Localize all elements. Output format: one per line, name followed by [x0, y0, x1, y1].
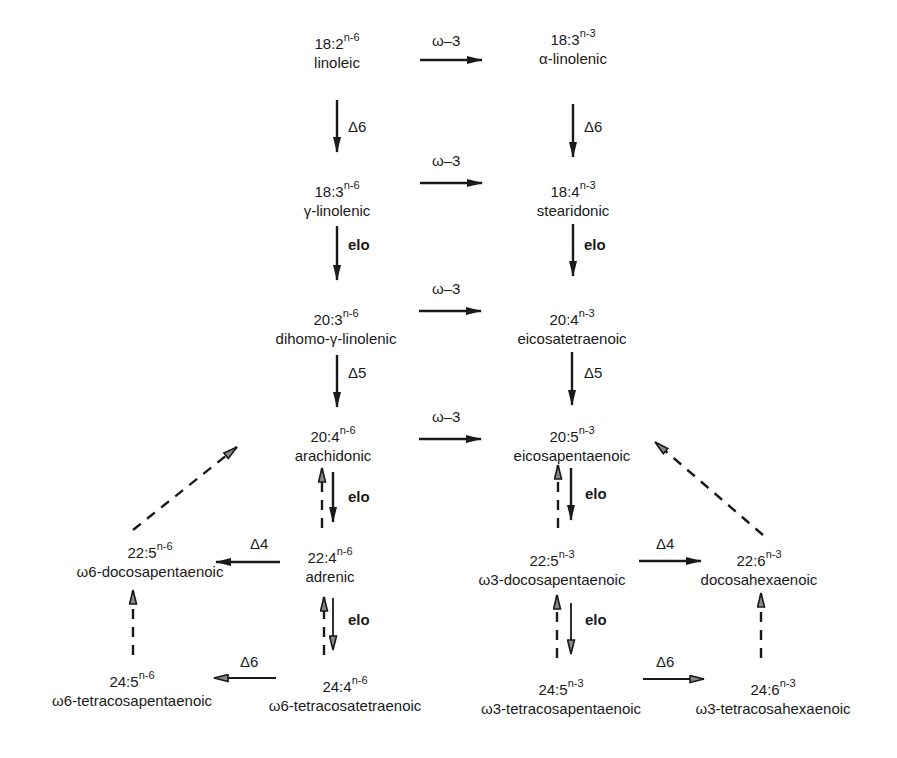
node-code: 20:5: [549, 428, 578, 445]
node-series: n-6: [340, 424, 356, 436]
label-d6-left: Δ6: [348, 118, 366, 136]
node-name: arachidonic: [295, 446, 372, 465]
label-d6-bottom-left: Δ6: [240, 653, 258, 671]
label-omega3-2: ω–3: [432, 152, 460, 170]
node-name: dihomo-γ-linolenic: [276, 329, 397, 348]
arrows-layer: [0, 0, 897, 758]
node-22-6-docosahexaenoic: 22:6n-3 docosahexaenoic: [701, 551, 818, 589]
node-name: eicosatetraenoic: [517, 329, 626, 348]
node-series: n-3: [559, 548, 575, 560]
node-code: 18:3: [314, 183, 343, 200]
node-22-5-omega6-docosapentaenoic: 22:5n-6 ω6-docosapentaenoic: [77, 543, 224, 581]
node-20-5-eicosapentaenoic: 20:5n-3 eicosapentaenoic: [514, 427, 631, 465]
node-name: eicosapentaenoic: [514, 446, 631, 465]
node-series: n-6: [344, 31, 360, 43]
label-omega3-4: ω–3: [432, 408, 460, 426]
node-series: n-3: [579, 307, 595, 319]
node-code: 24:5: [538, 681, 567, 698]
node-18-2-linoleic: 18:2n-6 linoleic: [314, 34, 360, 72]
node-series: n-3: [580, 27, 596, 39]
node-name: stearidonic: [537, 201, 610, 220]
node-code: 20:4: [310, 428, 339, 445]
node-name: adrenic: [305, 567, 354, 586]
label-d4-left: Δ4: [250, 535, 268, 553]
node-code: 18:3: [550, 31, 579, 48]
node-series: n-6: [344, 179, 360, 191]
node-series: n-6: [352, 674, 368, 686]
label-elo-right-3: elo: [585, 611, 607, 629]
node-20-4-arachidonic: 20:4n-6 arachidonic: [295, 427, 372, 465]
node-20-3-dihomo-gamma-linolenic: 20:3n-6 dihomo-γ-linolenic: [276, 310, 397, 348]
arrow-dashed-22-5n6-to-20-4: [133, 447, 237, 530]
node-code: 22:5: [529, 552, 558, 569]
node-name: ω3-tetracosapentaenoic: [481, 699, 641, 718]
node-24-6-omega3-tetracosahexaenoic: 24:6n-3 ω3-tetracosahexaenoic: [695, 680, 850, 718]
node-name: ω3-tetracosahexaenoic: [695, 699, 850, 718]
node-name: ω6-tetracosapentaenoic: [52, 691, 212, 710]
node-code: 24:5: [109, 673, 138, 690]
node-name: α-linolenic: [539, 49, 607, 68]
label-elo-left-2: elo: [348, 488, 370, 506]
node-name: γ-linolenic: [304, 201, 371, 220]
node-code: 20:4: [549, 311, 578, 328]
node-series: n-3: [766, 548, 782, 560]
node-name: ω6-tetracosatetraenoic: [269, 696, 422, 715]
node-code: 22:5: [127, 544, 156, 561]
node-18-3-alpha-linolenic: 18:3n-3 α-linolenic: [539, 30, 607, 68]
label-d5-left: Δ5: [348, 364, 366, 382]
node-code: 22:4: [307, 549, 336, 566]
node-name: docosahexaenoic: [701, 570, 818, 589]
node-18-3-gamma-linolenic: 18:3n-6 γ-linolenic: [304, 182, 371, 220]
node-24-5-omega3-tetracosapentaenoic: 24:5n-3 ω3-tetracosapentaenoic: [481, 680, 641, 718]
node-code: 18:2: [314, 35, 343, 52]
node-code: 22:6: [736, 552, 765, 569]
label-elo-right-1: elo: [584, 236, 606, 254]
node-code: 24:4: [322, 678, 351, 695]
label-d5-right: Δ5: [584, 364, 602, 382]
node-24-5-omega6-tetracosapentaenoic: 24:5n-6 ω6-tetracosapentaenoic: [52, 672, 212, 710]
node-series: n-6: [337, 545, 353, 557]
node-series: n-6: [157, 540, 173, 552]
label-d6-bottom-right: Δ6: [656, 653, 674, 671]
label-omega3-1: ω–3: [432, 32, 460, 50]
node-series: n-6: [343, 307, 359, 319]
node-name: linoleic: [314, 53, 360, 72]
label-omega3-3: ω–3: [432, 280, 460, 298]
label-elo-left-3: elo: [348, 611, 370, 629]
node-series: n-3: [579, 424, 595, 436]
node-24-4-omega6-tetracosatetraenoic: 24:4n-6 ω6-tetracosatetraenoic: [269, 677, 422, 715]
node-name: ω3-docosapentaenoic: [479, 570, 626, 589]
label-d4-right: Δ4: [656, 535, 674, 553]
label-elo-left-1: elo: [348, 236, 370, 254]
label-d6-right: Δ6: [584, 118, 602, 136]
node-code: 18:4: [550, 183, 579, 200]
arrow-dashed-22-6-to-20-5: [655, 442, 763, 535]
node-22-4-adrenic: 22:4n-6 adrenic: [305, 548, 354, 586]
label-elo-right-2: elo: [585, 485, 607, 503]
node-series: n-6: [139, 669, 155, 681]
node-code: 24:6: [750, 681, 779, 698]
node-series: n-3: [568, 677, 584, 689]
node-22-5-omega3-docosapentaenoic: 22:5n-3 ω3-docosapentaenoic: [479, 551, 626, 589]
node-code: 20:3: [313, 311, 342, 328]
node-series: n-3: [780, 677, 796, 689]
node-20-4-eicosatetraenoic: 20:4n-3 eicosatetraenoic: [517, 310, 626, 348]
node-series: n-3: [580, 179, 596, 191]
node-name: ω6-docosapentaenoic: [77, 562, 224, 581]
node-18-4-stearidonic: 18:4n-3 stearidonic: [537, 182, 610, 220]
